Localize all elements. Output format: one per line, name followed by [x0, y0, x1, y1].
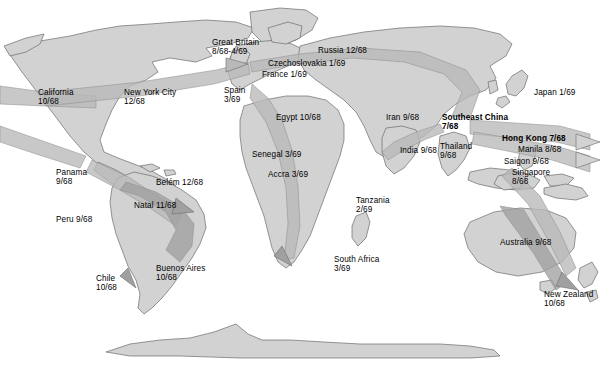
- spread-map: California 10/68New York City 12/68Great…: [0, 0, 608, 365]
- label-france: France 1/69: [262, 70, 307, 79]
- korea: [488, 80, 498, 94]
- label-manila: Manila 8/68: [518, 145, 561, 154]
- label-tanzania: Tanzania 2/69: [356, 196, 390, 215]
- label-natal: Natal 11/68: [134, 201, 176, 210]
- antarctica: [106, 324, 500, 358]
- label-hong-kong: Hong Kong 7/68: [502, 134, 566, 143]
- label-egypt: Egypt 10/68: [276, 113, 321, 122]
- label-accra: Accra 3/69: [268, 170, 308, 179]
- label-new-zealand: New Zealand 10/68: [544, 290, 593, 309]
- label-chile: Chile 10/68: [96, 274, 117, 293]
- japan-islands: [496, 70, 528, 108]
- label-southeast-china: Southeast China 7/68: [442, 113, 508, 132]
- label-japan: Japan 1/69: [534, 88, 576, 97]
- label-california: California 10/68: [38, 88, 74, 107]
- label-panama: Panama 9/68: [56, 168, 87, 187]
- label-thailand: Thailand 9/68: [440, 142, 472, 161]
- papua: [544, 184, 588, 200]
- label-russia: Russia 12/68: [318, 46, 367, 55]
- label-buenos-aires: Buenos Aires 10/68: [156, 264, 205, 283]
- label-singapore: Singapore 8/68: [512, 168, 550, 187]
- label-peru: Peru 9/68: [56, 215, 92, 224]
- label-belem: Belém 12/68: [156, 178, 203, 187]
- madagascar: [352, 212, 370, 246]
- label-czechoslovakia: Czechoslovakia 1/69: [268, 59, 345, 68]
- label-spain: Spain 3/69: [224, 86, 245, 105]
- label-senegal: Senegal 3/69: [252, 150, 301, 159]
- label-australia: Australia 9/68: [500, 238, 551, 247]
- label-saigon: Saigon 9/68: [504, 157, 549, 166]
- label-south-africa: South Africa 3/69: [334, 255, 379, 274]
- label-india: India 9/68: [400, 146, 437, 155]
- label-new-york-city: New York City 12/68: [124, 88, 176, 107]
- label-iran: Iran 9/68: [386, 113, 419, 122]
- label-great-britain: Great Britain 8/68-4/69: [212, 38, 259, 57]
